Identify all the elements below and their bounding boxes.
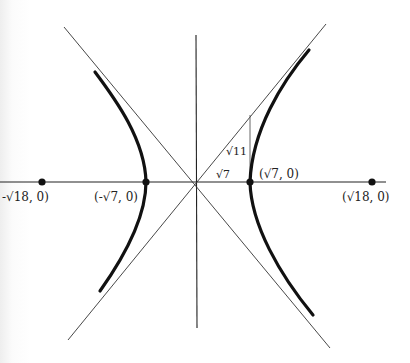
right-focus-point [368, 178, 375, 185]
triangle-base-label: √7 [216, 168, 230, 181]
right-focus-label: (√18, 0) [342, 190, 390, 204]
left-focus-point [38, 178, 45, 185]
triangle-height-label: √11 [226, 145, 247, 158]
hyperbola-diagram: -√18, 0) (-√7, 0) (√7, 0) (√18, 0) √7 √1… [0, 0, 410, 363]
left-vertex-point [142, 178, 149, 185]
right-vertex-point [246, 178, 253, 185]
diagram-svg: -√18, 0) (-√7, 0) (√7, 0) (√18, 0) √7 √1… [0, 0, 410, 363]
left-focus-label: -√18, 0) [2, 190, 49, 204]
right-vertex-label: (√7, 0) [259, 167, 299, 181]
left-vertex-label: (-√7, 0) [94, 190, 138, 204]
